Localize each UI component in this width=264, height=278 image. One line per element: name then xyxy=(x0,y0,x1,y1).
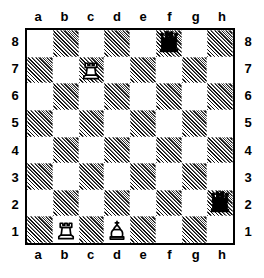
square-c7[interactable] xyxy=(79,57,105,84)
rank-label-1-left: 1 xyxy=(7,218,23,245)
rank-label-6-left: 6 xyxy=(7,82,23,109)
square-h8[interactable] xyxy=(207,30,233,57)
white-rook-icon[interactable] xyxy=(54,218,78,242)
rank-label-8-right: 8 xyxy=(240,28,256,55)
chess-board[interactable] xyxy=(25,28,235,245)
rank-labels-right: 8 7 6 5 4 3 2 1 xyxy=(240,28,256,245)
square-b8[interactable] xyxy=(53,30,79,57)
square-b6[interactable] xyxy=(53,83,79,110)
square-d4[interactable] xyxy=(104,137,130,164)
square-a5[interactable] xyxy=(27,110,53,137)
square-h2[interactable] xyxy=(207,190,233,217)
white-king-icon[interactable] xyxy=(105,218,129,242)
square-b5[interactable] xyxy=(53,110,79,137)
chess-board-grid[interactable] xyxy=(27,30,233,243)
rank-label-5-right: 5 xyxy=(240,109,256,136)
rank-label-7-left: 7 xyxy=(7,55,23,82)
square-f2[interactable] xyxy=(156,190,182,217)
square-h6[interactable] xyxy=(207,83,233,110)
file-label-a-top: a xyxy=(25,9,51,25)
square-c3[interactable] xyxy=(79,163,105,190)
square-d1[interactable] xyxy=(104,216,130,243)
square-b7[interactable] xyxy=(53,57,79,84)
file-labels-bottom: a b c d e f g h xyxy=(25,247,235,263)
square-e6[interactable] xyxy=(130,83,156,110)
square-d7[interactable] xyxy=(104,57,130,84)
rank-label-5-left: 5 xyxy=(7,109,23,136)
square-e2[interactable] xyxy=(130,190,156,217)
square-f4[interactable] xyxy=(156,137,182,164)
square-g1[interactable] xyxy=(182,216,208,243)
square-f8[interactable] xyxy=(156,30,182,57)
file-label-c-bottom: c xyxy=(78,247,104,263)
square-g5[interactable] xyxy=(182,110,208,137)
square-g8[interactable] xyxy=(182,30,208,57)
square-a3[interactable] xyxy=(27,163,53,190)
square-a1[interactable] xyxy=(27,216,53,243)
file-label-f-top: f xyxy=(156,9,182,25)
square-d3[interactable] xyxy=(104,163,130,190)
square-e8[interactable] xyxy=(130,30,156,57)
rank-labels-left: 8 7 6 5 4 3 2 1 xyxy=(7,28,23,245)
rank-label-3-left: 3 xyxy=(7,164,23,191)
file-label-g-bottom: g xyxy=(183,247,209,263)
square-d6[interactable] xyxy=(104,83,130,110)
square-f3[interactable] xyxy=(156,163,182,190)
black-queen-icon[interactable] xyxy=(157,31,181,55)
square-b2[interactable] xyxy=(53,190,79,217)
square-d8[interactable] xyxy=(104,30,130,57)
square-e4[interactable] xyxy=(130,137,156,164)
square-c5[interactable] xyxy=(79,110,105,137)
square-d2[interactable] xyxy=(104,190,130,217)
file-label-d-top: d xyxy=(104,9,130,25)
file-label-h-top: h xyxy=(209,9,235,25)
rank-label-3-right: 3 xyxy=(240,164,256,191)
square-g6[interactable] xyxy=(182,83,208,110)
square-f1[interactable] xyxy=(156,216,182,243)
rank-label-2-left: 2 xyxy=(7,191,23,218)
file-label-e-top: e xyxy=(130,9,156,25)
square-b1[interactable] xyxy=(53,216,79,243)
rank-label-1-right: 1 xyxy=(240,218,256,245)
file-labels-top: a b c d e f g h xyxy=(25,9,235,25)
square-h1[interactable] xyxy=(207,216,233,243)
square-a2[interactable] xyxy=(27,190,53,217)
square-h7[interactable] xyxy=(207,57,233,84)
square-f5[interactable] xyxy=(156,110,182,137)
file-label-b-bottom: b xyxy=(51,247,77,263)
square-e7[interactable] xyxy=(130,57,156,84)
square-h4[interactable] xyxy=(207,137,233,164)
square-g7[interactable] xyxy=(182,57,208,84)
square-g4[interactable] xyxy=(182,137,208,164)
square-e5[interactable] xyxy=(130,110,156,137)
square-h5[interactable] xyxy=(207,110,233,137)
square-a8[interactable] xyxy=(27,30,53,57)
file-label-f-bottom: f xyxy=(156,247,182,263)
rank-label-8-left: 8 xyxy=(7,28,23,55)
file-label-c-top: c xyxy=(78,9,104,25)
square-b3[interactable] xyxy=(53,163,79,190)
square-d5[interactable] xyxy=(104,110,130,137)
white-rook-icon[interactable] xyxy=(79,58,103,82)
square-g3[interactable] xyxy=(182,163,208,190)
square-c6[interactable] xyxy=(79,83,105,110)
square-b4[interactable] xyxy=(53,137,79,164)
black-queen-icon[interactable] xyxy=(208,191,232,215)
rank-label-4-right: 4 xyxy=(240,137,256,164)
square-a6[interactable] xyxy=(27,83,53,110)
square-c8[interactable] xyxy=(79,30,105,57)
chess-diagram: a b c d e f g h 8 7 6 5 4 3 2 1 xyxy=(0,0,264,278)
square-f6[interactable] xyxy=(156,83,182,110)
square-g2[interactable] xyxy=(182,190,208,217)
square-f7[interactable] xyxy=(156,57,182,84)
rank-label-7-right: 7 xyxy=(240,55,256,82)
square-e1[interactable] xyxy=(130,216,156,243)
square-c2[interactable] xyxy=(79,190,105,217)
square-a4[interactable] xyxy=(27,137,53,164)
square-c1[interactable] xyxy=(79,216,105,243)
square-c4[interactable] xyxy=(79,137,105,164)
square-e3[interactable] xyxy=(130,163,156,190)
rank-label-6-right: 6 xyxy=(240,82,256,109)
square-a7[interactable] xyxy=(27,57,53,84)
square-h3[interactable] xyxy=(207,163,233,190)
